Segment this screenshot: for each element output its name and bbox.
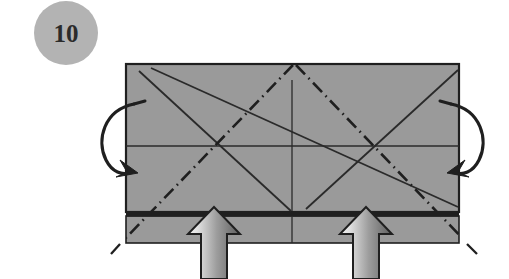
origami-step-illustration: 10 [0,0,509,279]
step-number-label: 10 [54,20,79,47]
valley-fold-tail-left [111,244,120,254]
valley-fold-tail-right [467,244,477,254]
paper-dark-edge-band [126,211,459,217]
origami-diagram-canvas: 10 [0,0,509,279]
step-number-badge: 10 [34,1,98,65]
valley-fold-extension-tails [111,244,477,254]
